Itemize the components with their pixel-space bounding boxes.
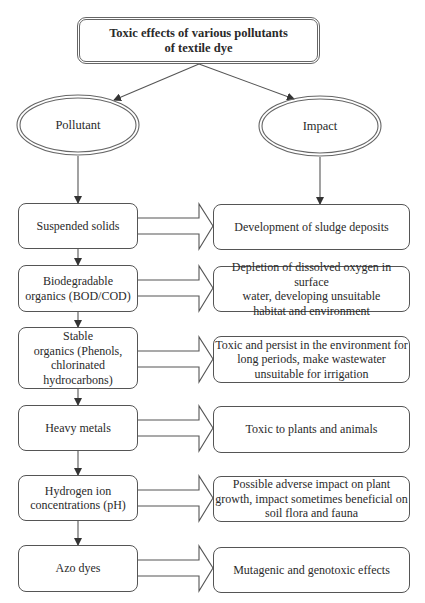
title-box: Toxic effects of various pollutants of t… [77,17,320,64]
pollutant-box-azo-dyes: Azo dyes [18,545,138,592]
pollutant-box-hydrogen-ion: Hydrogen ion concentrations (pH) [18,475,138,521]
impact-box-persistent-toxic: Toxic and persist in the environment for… [213,336,410,383]
arrow-title-to-impact [199,64,294,99]
impact-box-oxygen-depletion: Depletion of dissolved oxygen in surface… [213,266,410,312]
impact-box-sludge-deposits: Development of sludge deposits [213,204,410,250]
impact-box-mutagenic: Mutagenic and genotoxic effects [213,547,410,593]
block-arrow-row2 [138,266,213,311]
pollutant-box-stable-organics: Stable organics (Phenols, chlorinated hy… [18,327,138,389]
pollutant-box-heavy-metals: Heavy metals [18,405,138,451]
title-line-2: of textile dye [164,41,232,56]
block-arrow-row6 [138,546,213,591]
impact-label: Impact [262,113,378,139]
pollutant-box-suspended-solids: Suspended solids [18,203,138,249]
block-arrow-row4 [138,406,213,451]
block-arrow-row1 [138,204,213,249]
title-line-1: Toxic effects of various pollutants [109,26,288,41]
block-arrow-row5 [138,476,213,521]
impact-box-plant-growth: Possible adverse impact on plant growth,… [213,476,410,522]
block-arrow-row3 [138,337,213,382]
impact-box-toxic-plants-animals: Toxic to plants and animals [213,406,410,453]
pollutant-box-biodegradable-organics: Biodegradable organics (BOD/COD) [18,265,138,312]
pollutant-label: Pollutant [20,112,136,138]
arrow-title-to-pollutant [114,64,199,100]
